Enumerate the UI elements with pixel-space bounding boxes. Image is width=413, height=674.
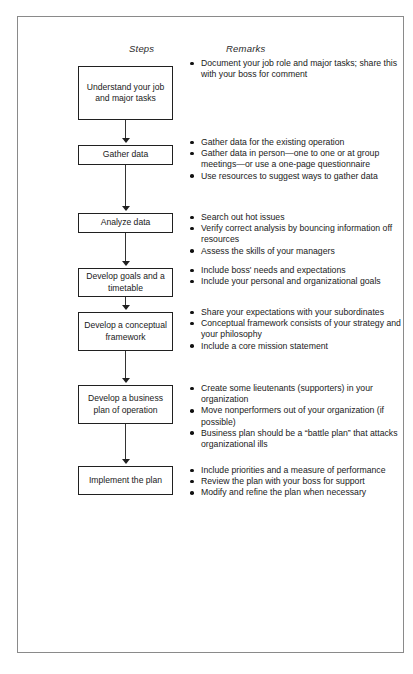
flow-connector (125, 424, 126, 462)
remark-item: Use resources to suggest ways to gather … (188, 171, 402, 182)
bullet-icon (190, 174, 194, 178)
flow-step-label: Develop goals and a timetable (82, 271, 169, 293)
remark-item: Document your job role and major tasks; … (188, 58, 402, 80)
flow-step-box[interactable]: Implement the plan (78, 466, 173, 495)
flow-step-label: Develop a conceptual framework (82, 320, 169, 342)
remark-text: Use resources to suggest ways to gather … (201, 171, 378, 181)
remark-item: Create some lieutenants (supporters) in … (188, 383, 402, 405)
bullet-icon (190, 152, 194, 156)
remark-text: Share your expectations with your subord… (201, 307, 384, 317)
remark-item: Gather data in person—one to one or at g… (188, 148, 402, 170)
remark-item: Include boss' needs and expectations (188, 265, 402, 276)
remark-item: Gather data for the existing operation (188, 137, 402, 148)
remark-text: Include your personal and organizational… (201, 276, 381, 286)
remark-item: Conceptual framework consists of your st… (188, 318, 402, 340)
remark-item: Search out hot issues (188, 212, 402, 223)
flow-arrow-icon (122, 305, 130, 310)
remark-item: Include priorities and a measure of perf… (188, 465, 402, 476)
flow-step-label: Analyze data (101, 217, 151, 228)
remark-text: Include boss' needs and expectations (201, 265, 346, 275)
bullet-icon (190, 216, 194, 220)
bullet-icon (190, 469, 194, 473)
bullet-icon (190, 249, 194, 253)
remark-group: Document your job role and major tasks; … (188, 58, 402, 80)
remark-group: Share your expectations with your subord… (188, 307, 402, 352)
flow-step-box[interactable]: Develop goals and a timetable (78, 268, 173, 297)
bullet-icon (190, 431, 194, 435)
remark-item: Include your personal and organizational… (188, 276, 402, 287)
flow-connector (125, 165, 126, 209)
flow-step-box[interactable]: Analyze data (78, 213, 173, 233)
flow-connector (125, 351, 126, 381)
flow-step-box[interactable]: Develop a business plan of operation (78, 385, 173, 424)
flow-step-box[interactable]: Develop a conceptual framework (78, 312, 173, 351)
flowchart-steps-column: Understand your job and major tasksGathe… (78, 44, 173, 534)
bullet-icon (190, 62, 194, 66)
remark-text: Search out hot issues (201, 212, 285, 222)
bullet-icon (190, 269, 194, 273)
remark-text: Include a core mission statement (201, 341, 328, 351)
flow-connector (125, 233, 126, 264)
remark-text: Document your job role and major tasks; … (201, 58, 397, 79)
flow-arrow-icon (122, 138, 130, 143)
remark-item: Move nonperformers out of your organizat… (188, 405, 402, 427)
remark-text: Gather data in person—one to one or at g… (201, 148, 379, 169)
flow-arrow-icon (122, 459, 130, 464)
bullet-icon (190, 322, 194, 326)
remark-text: Move nonperformers out of your organizat… (201, 405, 384, 426)
remark-text: Business plan should be a “battle plan” … (201, 428, 398, 449)
remark-text: Verify correct analysis by bouncing info… (201, 223, 392, 244)
flow-step-label: Gather data (103, 149, 148, 160)
remark-item: Assess the skills of your managers (188, 246, 402, 257)
flow-step-label: Implement the plan (89, 475, 162, 486)
flow-step-label: Understand your job and major tasks (82, 82, 169, 104)
remark-group: Create some lieutenants (supporters) in … (188, 383, 402, 450)
column-heading-remarks: Remarks (226, 43, 265, 54)
remark-text: Include priorities and a measure of perf… (201, 465, 385, 475)
bullet-icon (190, 491, 194, 495)
flow-step-label: Develop a business plan of operation (82, 393, 169, 415)
remark-group: Search out hot issuesVerify correct anal… (188, 212, 402, 257)
flow-step-box[interactable]: Gather data (78, 145, 173, 165)
bullet-icon (190, 387, 194, 391)
bullet-icon (190, 141, 194, 145)
bullet-icon (190, 311, 194, 315)
remark-item: Include a core mission statement (188, 341, 402, 352)
remark-group: Gather data for the existing operationGa… (188, 137, 402, 182)
remark-text: Modify and refine the plan when necessar… (201, 487, 366, 497)
remark-item: Verify correct analysis by bouncing info… (188, 223, 402, 245)
bullet-icon (190, 280, 194, 284)
remark-text: Conceptual framework consists of your st… (201, 318, 401, 339)
flow-step-box[interactable]: Understand your job and major tasks (78, 66, 173, 120)
remark-group: Include boss' needs and expectationsIncl… (188, 265, 402, 287)
remark-text: Assess the skills of your managers (201, 246, 335, 256)
remark-item: Modify and refine the plan when necessar… (188, 487, 402, 498)
remark-group: Include priorities and a measure of perf… (188, 465, 402, 499)
flow-arrow-icon (122, 378, 130, 383)
remark-text: Create some lieutenants (supporters) in … (201, 383, 373, 404)
flow-arrow-icon (122, 206, 130, 211)
remark-text: Review the plan with your boss for suppo… (201, 476, 365, 486)
bullet-icon (190, 409, 194, 413)
bullet-icon (190, 344, 194, 348)
remark-item: Review the plan with your boss for suppo… (188, 476, 402, 487)
remark-item: Business plan should be a “battle plan” … (188, 428, 402, 450)
bullet-icon (190, 227, 194, 231)
remark-item: Share your expectations with your subord… (188, 307, 402, 318)
bullet-icon (190, 480, 194, 484)
remark-text: Gather data for the existing operation (201, 137, 344, 147)
flow-arrow-icon (122, 261, 130, 266)
